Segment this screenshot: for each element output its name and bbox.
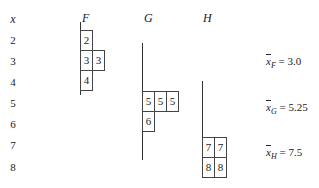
x-value-5: 5 (6, 97, 20, 109)
x-value-2: 2 (6, 34, 20, 46)
mean-f-label: xF = 3.0 (266, 55, 301, 70)
group-h-cell: 7 (214, 137, 227, 158)
x-value-7: 7 (6, 139, 20, 151)
group-g-cell: 6 (142, 111, 155, 132)
group-g-header: G (144, 11, 153, 26)
x-value-6: 6 (6, 118, 20, 130)
group-f-header: F (82, 11, 89, 26)
group-h-cell: 8 (214, 157, 227, 178)
x-value-4: 4 (6, 76, 20, 88)
mean-g-label: xG = 5.25 (266, 101, 308, 116)
group-f-cell: 2 (80, 30, 93, 51)
group-f-cell: 3 (92, 50, 105, 71)
group-h-header: H (203, 11, 212, 26)
x-value-8: 8 (6, 161, 20, 173)
x-column-header: x (6, 12, 20, 27)
x-value-3: 3 (6, 55, 20, 67)
mean-h-label: xH = 7.5 (266, 146, 302, 161)
group-f-cell: 4 (80, 70, 93, 91)
group-g-cell: 5 (166, 91, 179, 112)
